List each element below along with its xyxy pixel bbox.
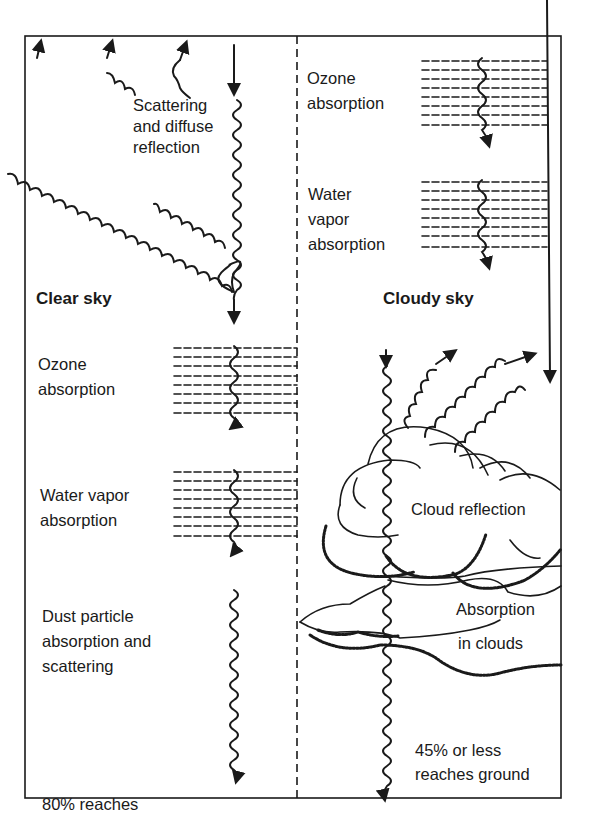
label-dust-clear: Dust particle absorption and scattering	[42, 604, 151, 679]
diagram-frame	[25, 36, 561, 798]
label-result-cloudy: 45% or less reaches ground	[415, 738, 530, 786]
label-water-vapor-clear: Water vapor absorption	[40, 483, 129, 533]
scatter-ray-long	[8, 174, 232, 292]
reflected-ray-1	[404, 370, 436, 428]
label-water-vapor-cloudy: Water vapor absorption	[308, 182, 385, 257]
ray-through-water-vapor-clear	[230, 470, 238, 552]
label-cloud-absorption: Absorption in clouds	[456, 592, 535, 660]
ray-through-water-vapor-cloudy	[478, 180, 488, 264]
scatter-ray-mid-upper	[107, 73, 135, 95]
label-ozone-clear: Ozone absorption	[38, 352, 115, 402]
water-vapor-band-cloudy	[422, 182, 547, 247]
label-ozone-cloudy: Ozone absorption	[307, 66, 384, 116]
label-cloud-reflection: Cloud reflection	[411, 498, 526, 520]
ray-through-ozone-clear	[230, 346, 238, 426]
heading-cloudy-sky: Cloudy sky	[383, 288, 474, 310]
ray-through-dust-clear	[230, 590, 238, 778]
reflected-ray-2	[425, 359, 505, 437]
label-result-clear: 80% reaches ground	[42, 742, 138, 819]
scatter-ray-mid	[154, 204, 225, 248]
heading-clear-sky: Clear sky	[36, 288, 112, 310]
scatter-ray-short	[173, 60, 190, 98]
ozone-band-cloudy	[422, 61, 547, 125]
label-scattering: Scattering and diffuse reflection	[133, 95, 213, 158]
diagram-artwork	[0, 0, 591, 819]
